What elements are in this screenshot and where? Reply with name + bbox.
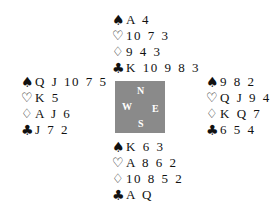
diamond-icon: ♢ (21, 106, 35, 122)
heart-icon: ♡ (112, 155, 126, 171)
east-spades-cards: 9 8 2 (220, 74, 256, 90)
east-hearts-row: ♡ Q J 9 4 (206, 90, 271, 106)
south-spades-cards: K 6 3 (126, 139, 164, 155)
west-spades-cards: Q J 10 7 5 (35, 74, 107, 90)
heart-icon: ♡ (112, 28, 126, 44)
east-hand: ♠ 9 8 2 ♡ Q J 9 4 ♢ K Q 7 ♣ 6 5 4 (206, 74, 271, 138)
west-diamonds-cards: A J 6 (35, 106, 71, 122)
east-diamonds-row: ♢ K Q 7 (206, 106, 271, 122)
south-diamonds-cards: 10 8 5 2 (126, 171, 183, 187)
west-clubs-cards: J 7 2 (35, 122, 69, 138)
diamond-icon: ♢ (112, 171, 126, 187)
east-diamonds-cards: K Q 7 (220, 106, 261, 122)
south-hand: ♠ K 6 3 ♡ A 8 6 2 ♢ 10 8 5 2 ♣ A Q (112, 139, 183, 203)
north-hearts-row: ♡ 10 7 3 (112, 28, 200, 44)
west-hand: ♠ Q J 10 7 5 ♡ K 5 ♢ A J 6 ♣ J 7 2 (21, 74, 107, 138)
compass-west-label: W (122, 101, 132, 112)
south-clubs-row: ♣ A Q (112, 187, 183, 203)
north-clubs-row: ♣ K 10 9 8 3 (112, 60, 200, 76)
south-clubs-cards: A Q (126, 187, 153, 203)
diamond-icon: ♢ (206, 106, 220, 122)
club-icon: ♣ (21, 122, 35, 138)
north-diamonds-cards: 9 4 3 (126, 44, 162, 60)
compass-box: N W E S (115, 81, 165, 133)
spade-icon: ♠ (112, 12, 126, 28)
club-icon: ♣ (112, 187, 126, 203)
heart-icon: ♡ (21, 90, 35, 106)
club-icon: ♣ (206, 122, 220, 138)
south-hearts-row: ♡ A 8 6 2 (112, 155, 183, 171)
spade-icon: ♠ (206, 74, 220, 90)
north-diamonds-row: ♢ 9 4 3 (112, 44, 200, 60)
east-clubs-row: ♣ 6 5 4 (206, 122, 271, 138)
south-diamonds-row: ♢ 10 8 5 2 (112, 171, 183, 187)
spade-icon: ♠ (112, 139, 126, 155)
west-diamonds-row: ♢ A J 6 (21, 106, 107, 122)
west-hearts-cards: K 5 (35, 90, 60, 106)
diamond-icon: ♢ (112, 44, 126, 60)
west-clubs-row: ♣ J 7 2 (21, 122, 107, 138)
heart-icon: ♡ (206, 90, 220, 106)
west-spades-row: ♠ Q J 10 7 5 (21, 74, 107, 90)
south-spades-row: ♠ K 6 3 (112, 139, 183, 155)
west-hearts-row: ♡ K 5 (21, 90, 107, 106)
north-hand: ♠ A 4 ♡ 10 7 3 ♢ 9 4 3 ♣ K 10 9 8 3 (112, 12, 200, 76)
east-spades-row: ♠ 9 8 2 (206, 74, 271, 90)
spade-icon: ♠ (21, 74, 35, 90)
club-icon: ♣ (112, 60, 126, 76)
north-hearts-cards: 10 7 3 (126, 28, 170, 44)
north-spades-cards: A 4 (126, 12, 150, 28)
north-clubs-cards: K 10 9 8 3 (126, 60, 200, 76)
east-hearts-cards: Q J 9 4 (220, 90, 271, 106)
compass-east-label: E (152, 103, 159, 114)
south-hearts-cards: A 8 6 2 (126, 155, 177, 171)
east-clubs-cards: 6 5 4 (220, 122, 256, 138)
compass-north-label: N (137, 85, 144, 96)
compass-south-label: S (138, 118, 144, 129)
north-spades-row: ♠ A 4 (112, 12, 200, 28)
